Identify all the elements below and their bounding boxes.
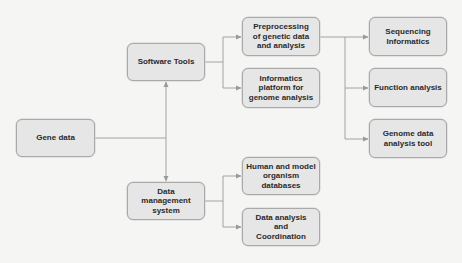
node-label: Sequencing Informatics (384, 27, 432, 46)
node-preprocessing: Preprocessing of genetic data and analys… (242, 17, 320, 56)
node-software-tools: Software Tools (127, 43, 205, 81)
node-label: Human and model organism databases (244, 162, 318, 191)
diagram-canvas: Gene data Software Tools Data management… (0, 0, 462, 263)
node-function-analysis: Function analysis (369, 68, 447, 107)
node-data-management-system: Data management system (127, 182, 205, 220)
node-genome-data-analysis-tool: Genome data analysis tool (369, 119, 447, 158)
node-informatics-platform: Informatics platform for genome analysis (242, 68, 320, 108)
node-sequencing-informatics: Sequencing Informatics (369, 17, 447, 56)
node-label: Gene data (36, 133, 75, 143)
node-label: Function analysis (374, 83, 442, 93)
node-human-model-databases: Human and model organism databases (242, 157, 320, 195)
node-gene-data: Gene data (16, 119, 95, 157)
node-label: Data management system (138, 187, 194, 216)
node-label: Preprocessing of genetic data and analys… (249, 22, 313, 51)
node-label: Software Tools (138, 57, 195, 67)
node-label: Genome data analysis tool (382, 129, 434, 148)
node-label: Data analysis and Coordination (251, 213, 311, 242)
node-label: Informatics platform for genome analysis (244, 74, 318, 103)
node-data-analysis-coordination: Data analysis and Coordination (242, 208, 320, 246)
